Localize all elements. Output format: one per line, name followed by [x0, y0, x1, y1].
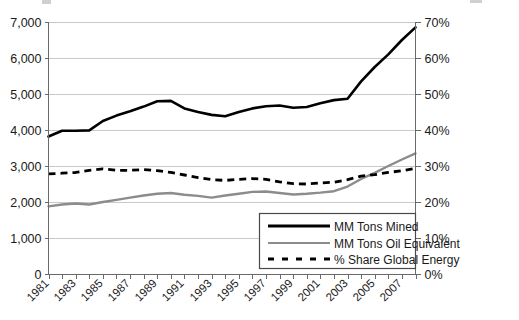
x-axis-tick-label: 1985 — [78, 277, 105, 304]
right-axis-tick-label: 60% — [425, 52, 450, 66]
x-axis-tick-label: 2001 — [295, 277, 322, 304]
series-line-share-global-energy — [49, 169, 416, 184]
right-axis-tick-label: 50% — [425, 88, 450, 102]
series-group — [49, 27, 416, 206]
x-axis-tick-label: 1987 — [105, 277, 132, 304]
left-axis-tick-label: 7,000 — [10, 16, 41, 30]
right-axis-tick-label: 0% — [425, 268, 443, 282]
legend-entries: MM Tons MinedMM Tons Oil Equivalent% Sha… — [268, 220, 460, 267]
x-axis-tick-label: 1991 — [159, 277, 186, 304]
left-axis-tick-label: 1,000 — [10, 232, 41, 246]
right-axis-tick-label: 20% — [425, 196, 450, 210]
top-clipped-text-artifact — [42, 0, 51, 4]
left-axis-tick-label: 4,000 — [10, 124, 41, 138]
x-axis-tick-labels: 1981198319851987198919911993199519971999… — [24, 277, 404, 304]
x-axis-tick-label: 1999 — [268, 277, 295, 304]
chart-legend[interactable]: MM Tons MinedMM Tons Oil Equivalent% Sha… — [260, 214, 461, 269]
coal-production-line-chart: 01,0002,0003,0004,0005,0006,0007,000 0%1… — [0, 0, 519, 320]
series-line-mm-tons-mined — [49, 27, 416, 136]
left-axis-tick-label: 2,000 — [10, 196, 41, 210]
legend-label: MM Tons Mined — [334, 220, 418, 234]
right-axis-tick-label: 30% — [425, 160, 450, 174]
left-axis-tick-label: 6,000 — [10, 52, 41, 66]
left-axis-tick-label: 5,000 — [10, 88, 41, 102]
left-axis-tick-labels: 01,0002,0003,0004,0005,0006,0007,000 — [10, 16, 41, 282]
x-axis-tick-label: 1989 — [132, 277, 159, 304]
legend-label: % Share Global Energy — [334, 253, 459, 267]
x-axis-tick-label: 2003 — [323, 277, 350, 304]
right-axis-tick-label: 40% — [425, 124, 450, 138]
x-axis-tick-label: 1993 — [187, 277, 214, 304]
legend-label: MM Tons Oil Equivalent — [334, 237, 460, 251]
chart-container: 01,0002,0003,0004,0005,0006,0007,000 0%1… — [0, 0, 519, 320]
x-axis-tick-label: 2007 — [377, 277, 404, 304]
x-axis-tick-label: 2005 — [350, 277, 377, 304]
x-axis-tick-label: 1981 — [24, 277, 51, 304]
x-axis-tick-label: 1995 — [214, 277, 241, 304]
right-axis-tick-label: 70% — [425, 16, 450, 30]
x-axis-tick-label: 1997 — [241, 277, 268, 304]
left-axis-tick-label: 3,000 — [10, 160, 41, 174]
x-axis-tick-label: 1983 — [51, 277, 78, 304]
top-clipped-text-artifact-right — [470, 0, 482, 3]
